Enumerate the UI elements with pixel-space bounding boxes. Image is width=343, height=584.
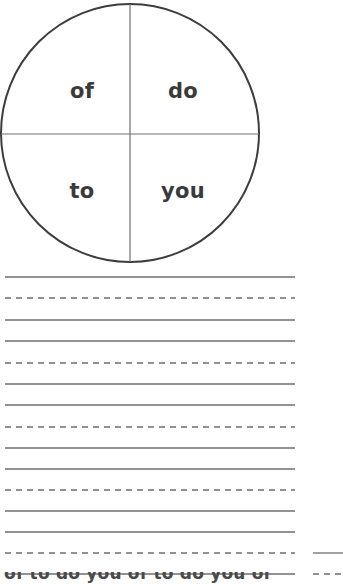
wheel-quadrant-bottom-left-label: to [69, 179, 94, 203]
bottom-clipped-text: of to do you of to do you of [4, 572, 271, 583]
word-wheel-container[interactable]: of do to you [0, 0, 262, 270]
worksheet-page: of do to you of to do you of to do you o… [0, 0, 343, 584]
bottom-clipped-row: of to do you of to do you of [0, 572, 312, 584]
wheel-quadrant-bottom-right-label: you [161, 179, 205, 203]
word-wheel-svg[interactable]: of do to you [0, 0, 262, 270]
wheel-quadrant-top-right-label: do [168, 79, 198, 103]
wheel-quadrant-top-left-label: of [70, 79, 95, 103]
